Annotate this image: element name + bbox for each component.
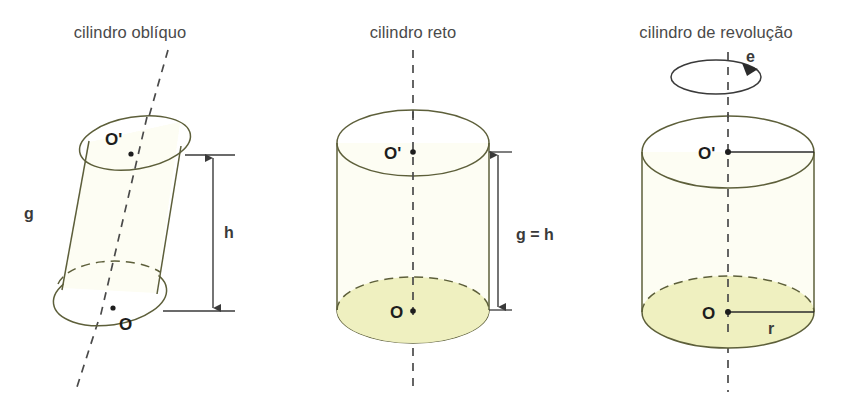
bottom-center-label-oblique: O (119, 315, 132, 334)
bottom-center-dot-revolution (725, 309, 731, 315)
top-center-label-revolution: O' (698, 144, 715, 163)
height-label-oblique: h (224, 224, 234, 241)
figure-canvas: cilindro oblíquo O' O g (0, 0, 849, 397)
panel-title-right: cilindro reto (370, 23, 457, 41)
bottom-center-dot-oblique (110, 305, 115, 310)
cylinder-types-figure: cilindro oblíquo O' O g (0, 0, 849, 397)
top-center-dot-revolution (725, 149, 731, 155)
bottom-center-dot-right (410, 308, 416, 314)
top-center-label-right: O' (384, 144, 401, 163)
panel-title-revolution: cilindro de revolução (639, 23, 792, 41)
top-center-label-oblique: O' (105, 130, 122, 149)
top-center-dot-right (410, 149, 416, 155)
generatrix-label-oblique: g (24, 205, 34, 222)
bottom-center-label-revolution: O (702, 304, 715, 323)
radius-label-revolution: r (768, 320, 774, 337)
top-center-dot-oblique (128, 151, 133, 156)
height-label-right: g = h (516, 226, 554, 243)
panel-title-oblique: cilindro oblíquo (74, 23, 187, 41)
bottom-center-label-right: O (390, 303, 403, 322)
axis-label-revolution: e (746, 48, 755, 65)
